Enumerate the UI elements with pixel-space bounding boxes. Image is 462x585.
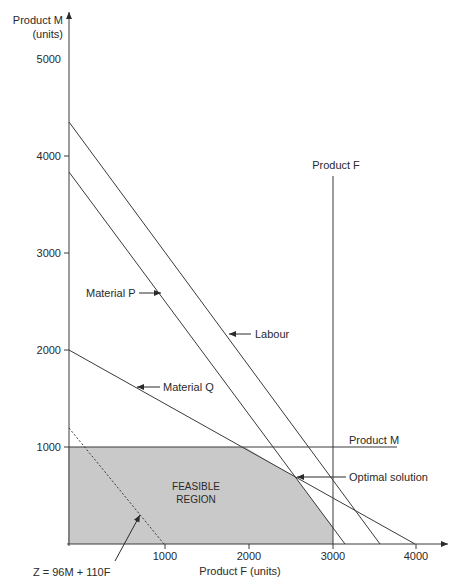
y-axis-title-line2: (units): [32, 28, 63, 40]
x-ticks: [165, 544, 416, 549]
feasible-label-line1: FEASIBLE: [172, 481, 220, 492]
x-tick-3000: 3000: [321, 550, 345, 562]
x-tick-4000: 4000: [404, 550, 428, 562]
material-q-label: Material Q: [163, 381, 214, 393]
y-tick-4000: 4000: [37, 150, 61, 162]
labour-label: Labour: [255, 328, 290, 340]
y-axis-title-line1: Product M: [13, 14, 63, 26]
x-axis-title: Product F (units): [199, 565, 280, 577]
y-ticks: [64, 156, 69, 447]
product-m-label: Product M: [349, 434, 399, 446]
x-tick-2000: 2000: [237, 550, 261, 562]
y-tick-1000: 1000: [37, 441, 61, 453]
feasible-label-line2: REGION: [176, 494, 215, 505]
y-tick-2000: 2000: [37, 344, 61, 356]
y-tick-3000: 3000: [37, 247, 61, 259]
material-p-label: Material P: [86, 287, 136, 299]
optimal-solution-label: Optimal solution: [349, 471, 428, 483]
x-tick-1000: 1000: [153, 550, 177, 562]
linear-programming-chart: 1000 2000 3000 4000 5000 1000 2000 3000 …: [0, 0, 462, 585]
y-tick-5000: 5000: [37, 53, 61, 65]
product-f-label: Product F: [312, 159, 360, 171]
objective-function-label: Z = 96M + 110F: [33, 566, 111, 578]
